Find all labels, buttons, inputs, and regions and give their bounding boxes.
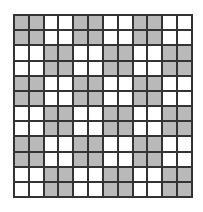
shaded-cell: [88, 76, 103, 91]
empty-cell: [88, 106, 103, 121]
empty-cell: [103, 30, 118, 45]
empty-cell: [147, 45, 162, 60]
empty-cell: [147, 61, 162, 76]
shaded-cell: [177, 45, 192, 60]
empty-cell: [118, 136, 133, 151]
shaded-cell: [29, 30, 44, 45]
empty-cell: [118, 76, 133, 91]
shaded-cell: [14, 152, 29, 167]
shaded-cell: [147, 91, 162, 106]
shaded-cell: [103, 45, 118, 60]
empty-cell: [44, 76, 59, 91]
empty-cell: [44, 30, 59, 45]
empty-cell: [58, 76, 73, 91]
shaded-cell: [29, 15, 44, 30]
empty-cell: [58, 152, 73, 167]
shaded-cell: [29, 91, 44, 106]
shaded-cell: [44, 45, 59, 60]
empty-cell: [58, 136, 73, 151]
empty-cell: [29, 106, 44, 121]
shaded-cell: [44, 182, 59, 197]
shaded-cell: [147, 30, 162, 45]
empty-cell: [88, 182, 103, 197]
shaded-cell: [103, 106, 118, 121]
empty-cell: [118, 15, 133, 30]
shaded-cell: [162, 45, 177, 60]
shaded-cell: [73, 91, 88, 106]
shaded-cell: [118, 61, 133, 76]
shaded-cell: [29, 76, 44, 91]
shaded-cell: [29, 152, 44, 167]
empty-cell: [14, 106, 29, 121]
empty-cell: [88, 45, 103, 60]
empty-cell: [177, 152, 192, 167]
empty-cell: [133, 45, 148, 60]
empty-cell: [73, 61, 88, 76]
shaded-cell: [103, 121, 118, 136]
empty-cell: [58, 91, 73, 106]
shaded-cell: [118, 182, 133, 197]
shaded-cell: [103, 167, 118, 182]
shaded-cell: [133, 15, 148, 30]
empty-cell: [177, 76, 192, 91]
shaded-cell: [147, 76, 162, 91]
shaded-cell: [58, 61, 73, 76]
shaded-cell: [147, 152, 162, 167]
empty-cell: [29, 182, 44, 197]
shaded-cell: [44, 121, 59, 136]
empty-cell: [88, 167, 103, 182]
shaded-cell: [14, 91, 29, 106]
shaded-cell: [58, 106, 73, 121]
shaded-cell: [177, 182, 192, 197]
empty-cell: [14, 61, 29, 76]
shaded-cell: [88, 152, 103, 167]
shaded-cell: [58, 121, 73, 136]
empty-cell: [162, 15, 177, 30]
empty-cell: [133, 106, 148, 121]
shaded-cell: [14, 30, 29, 45]
empty-cell: [133, 182, 148, 197]
shaded-cell: [88, 30, 103, 45]
shaded-cell: [162, 106, 177, 121]
empty-cell: [88, 61, 103, 76]
empty-cell: [177, 15, 192, 30]
shaded-cell: [133, 76, 148, 91]
empty-cell: [162, 76, 177, 91]
shaded-cell: [147, 136, 162, 151]
shaded-cell: [58, 45, 73, 60]
empty-cell: [103, 136, 118, 151]
shaded-cell: [73, 136, 88, 151]
empty-cell: [177, 91, 192, 106]
shaded-cell: [44, 61, 59, 76]
empty-cell: [147, 182, 162, 197]
empty-cell: [133, 167, 148, 182]
shaded-cell: [29, 136, 44, 151]
empty-cell: [29, 61, 44, 76]
shaded-cell: [147, 15, 162, 30]
shaded-cell: [133, 136, 148, 151]
shaded-cell: [88, 15, 103, 30]
shaded-cell: [14, 15, 29, 30]
shaded-cell: [162, 182, 177, 197]
shaded-cell: [44, 167, 59, 182]
empty-cell: [44, 136, 59, 151]
shaded-cell: [162, 61, 177, 76]
shaded-cell: [103, 182, 118, 197]
shaded-cell: [73, 76, 88, 91]
empty-cell: [133, 121, 148, 136]
empty-cell: [147, 106, 162, 121]
empty-cell: [44, 15, 59, 30]
empty-cell: [118, 30, 133, 45]
empty-cell: [58, 30, 73, 45]
shaded-cell: [14, 76, 29, 91]
shaded-cell: [118, 167, 133, 182]
empty-cell: [118, 152, 133, 167]
empty-cell: [73, 106, 88, 121]
empty-cell: [162, 30, 177, 45]
shaded-cell: [162, 121, 177, 136]
empty-cell: [14, 182, 29, 197]
empty-cell: [103, 76, 118, 91]
empty-cell: [29, 167, 44, 182]
empty-cell: [162, 136, 177, 151]
shaded-cell: [58, 182, 73, 197]
